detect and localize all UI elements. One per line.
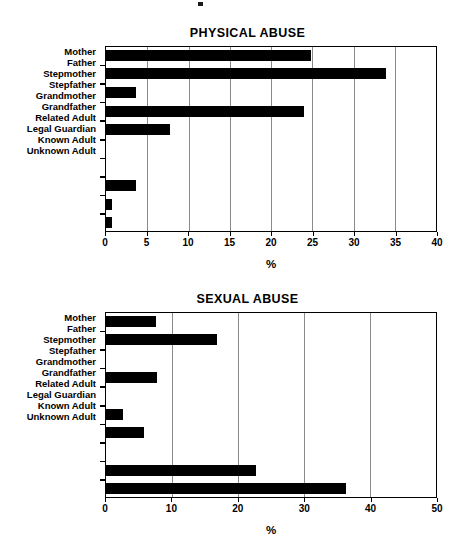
x-axis-tick-label-20: 20 [265, 237, 276, 248]
y-axis-tick [100, 102, 105, 104]
y-axis-tick [100, 331, 105, 333]
x-axis-tick-label-5: 5 [144, 237, 150, 248]
bar-row [105, 83, 437, 102]
x-axis-sexual: 01020304050 [105, 498, 437, 520]
bars-physical [105, 46, 437, 232]
bar-row [105, 65, 437, 84]
y-axis-ticks-sexual [100, 312, 105, 498]
bar-row [105, 176, 437, 195]
x-axis-tick-label-0: 0 [102, 503, 108, 514]
bar-stepfather [105, 372, 157, 383]
chart-sexual-abuse: SEXUAL ABUSE MotherFatherStepmotherStepf… [0, 292, 471, 544]
x-axis-tick-label-40: 40 [365, 503, 376, 514]
bar-row [105, 195, 437, 214]
x-axis-tick-mark [230, 232, 231, 236]
bar-row [105, 139, 437, 158]
y-axis-tick [100, 461, 105, 463]
x-axis-caption-sexual: % [105, 524, 437, 536]
x-axis-tick-mark [105, 498, 106, 502]
y-axis-labels-sexual: MotherFatherStepmotherStepfatherGrandmot… [0, 312, 101, 422]
bar-known-adult [105, 199, 112, 210]
plot-wrapper-physical: MotherFatherStepmotherStepfatherGrandmot… [105, 46, 437, 232]
y-axis-tick [100, 479, 105, 481]
bar-grandmother [105, 124, 170, 135]
y-axis-tick [100, 386, 105, 388]
x-axis-tick-mark [313, 232, 314, 236]
plot-wrapper-sexual: MotherFatherStepmotherStepfatherGrandmot… [105, 312, 437, 498]
y-axis-tick [100, 368, 105, 370]
bar-mother [105, 316, 156, 327]
y-axis-label-unknown-adult: Unknown Adult [0, 411, 101, 422]
x-axis-tick-label-0: 0 [102, 237, 108, 248]
bar-row [105, 442, 437, 461]
bar-row [105, 102, 437, 121]
y-axis-tick [100, 424, 105, 426]
x-axis-tick-mark [271, 232, 272, 236]
bar-row [105, 331, 437, 350]
y-axis-label-grandfather: Grandfather [0, 367, 101, 378]
bar-row [105, 349, 437, 368]
figure-page: PHYSICAL ABUSE MotherFatherStepmotherSte… [0, 0, 471, 557]
bar-row [105, 368, 437, 387]
x-axis-tick-mark [238, 498, 239, 502]
y-axis-tick [100, 139, 105, 141]
y-axis-tick [100, 65, 105, 67]
bar-row [105, 424, 437, 443]
y-axis-label-stepmother: Stepmother [0, 68, 101, 79]
y-axis-label-legal-guardian: Legal Guardian [0, 389, 101, 400]
x-axis-tick-label-40: 40 [431, 237, 442, 248]
y-axis-label-stepmother: Stepmother [0, 334, 101, 345]
x-axis-tick-label-25: 25 [307, 237, 318, 248]
y-axis-label-mother: Mother [0, 46, 101, 57]
x-axis-tick-mark [147, 232, 148, 236]
bar-father [105, 68, 386, 79]
bar-mother [105, 50, 311, 61]
y-axis-labels-physical: MotherFatherStepmotherStepfatherGrandmot… [0, 46, 101, 156]
bar-row [105, 479, 437, 498]
y-axis-label-grandmother: Grandmother [0, 90, 101, 101]
x-axis-caption-physical: % [105, 258, 437, 270]
bar-stepfather [105, 106, 304, 117]
bar-row [105, 213, 437, 232]
x-axis-tick-label-10: 10 [182, 237, 193, 248]
x-axis-tick-label-50: 50 [431, 503, 442, 514]
x-axis-tick-label-15: 15 [224, 237, 235, 248]
bar-stepmother [105, 87, 136, 98]
y-axis-tick [100, 120, 105, 122]
bar-row [105, 461, 437, 480]
y-axis-label-father: Father [0, 57, 101, 68]
x-axis-tick-label-20: 20 [232, 503, 243, 514]
y-axis-label-related-adult: Related Adult [0, 112, 101, 123]
x-axis-physical: 0510152025303540 [105, 232, 437, 254]
bar-row [105, 46, 437, 65]
x-axis-tick-label-30: 30 [348, 237, 359, 248]
bar-row [105, 120, 437, 139]
y-axis-tick [100, 442, 105, 444]
y-axis-tick [100, 176, 105, 178]
y-axis-label-grandmother: Grandmother [0, 356, 101, 367]
y-axis-tick [100, 349, 105, 351]
y-axis-label-known-adult: Known Adult [0, 134, 101, 145]
chart-title-physical-abuse: PHYSICAL ABUSE [0, 26, 471, 40]
bar-unknown-adult [105, 217, 112, 228]
x-axis-tick-mark [105, 232, 106, 236]
bar-row [105, 405, 437, 424]
x-axis-tick-mark [171, 498, 172, 502]
y-axis-label-stepfather: Stepfather [0, 345, 101, 356]
y-axis-label-related-adult: Related Adult [0, 378, 101, 389]
bar-row [105, 386, 437, 405]
y-axis-label-legal-guardian: Legal Guardian [0, 123, 101, 134]
x-axis-tick-mark [188, 232, 189, 236]
y-axis-label-father: Father [0, 323, 101, 334]
chart-physical-abuse: PHYSICAL ABUSE MotherFatherStepmotherSte… [0, 26, 471, 274]
x-axis-tick-mark [354, 232, 355, 236]
y-axis-tick [100, 405, 105, 407]
y-axis-label-stepfather: Stepfather [0, 79, 101, 90]
x-axis-tick-mark [304, 498, 305, 502]
bar-related-adult [105, 427, 144, 438]
y-axis-label-known-adult: Known Adult [0, 400, 101, 411]
y-axis-label-mother: Mother [0, 312, 101, 323]
bar-grandfather [105, 409, 123, 420]
y-axis-label-grandfather: Grandfather [0, 101, 101, 112]
bars-sexual [105, 312, 437, 498]
